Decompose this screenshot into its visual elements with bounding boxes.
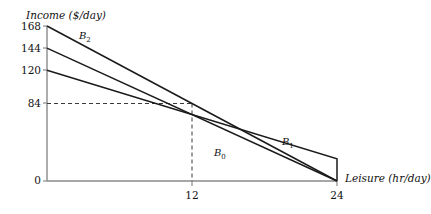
y-tick-label-120: 120: [13, 64, 41, 76]
curve-label-b1-sub: 1: [289, 142, 293, 150]
curve-label-b0: B0: [214, 147, 226, 161]
curve-label-b0-sub: 0: [221, 153, 225, 161]
y-tick-label-0: 0: [13, 174, 41, 186]
y-tick-label-84: 84: [13, 97, 41, 109]
curve-label-b2-sub: 2: [86, 36, 90, 44]
reference-lines: [47, 104, 192, 182]
x-tick-marks: [192, 181, 337, 186]
curve-label-b2: B2: [79, 30, 91, 44]
x-tick-label-24: 24: [323, 189, 351, 201]
x-axis-title: Leisure (hr/day): [345, 172, 431, 184]
y-tick-label-144: 144: [13, 42, 41, 54]
curve-label-b1: B1: [282, 136, 294, 150]
y-tick-label-168: 168: [13, 20, 41, 32]
x-tick-label-12: 12: [178, 189, 206, 201]
